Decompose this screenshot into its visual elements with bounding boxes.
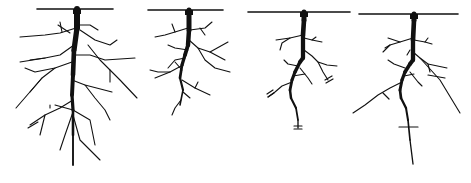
taproot-segment [72, 95, 73, 110]
lateral-root [60, 112, 73, 150]
taproot-segment [188, 30, 189, 45]
taproot-segment [401, 98, 406, 108]
taproot-segment [73, 50, 74, 75]
lateral-root [280, 35, 303, 50]
lateral-root [16, 78, 42, 108]
lateral-root [73, 115, 100, 160]
lateral-root [182, 80, 210, 95]
lateral-root [300, 68, 312, 84]
cut-mark [383, 93, 389, 99]
taproot-segment [182, 55, 185, 65]
lateral-root [72, 80, 112, 92]
lateral-root [195, 82, 198, 88]
lateral-root [172, 24, 175, 32]
taproot-segment [408, 120, 410, 140]
lateral-root [30, 45, 74, 60]
lateral-root [284, 60, 298, 66]
lateral-root [353, 82, 402, 113]
taproot-segment [180, 90, 183, 105]
lateral-root [383, 38, 413, 52]
taproot-segment [400, 90, 401, 98]
lateral-root [88, 45, 137, 98]
lateral-root [425, 38, 428, 42]
lateral-root [20, 58, 45, 62]
root-system-panel-3 [248, 12, 350, 129]
root-system-panel-1 [16, 9, 137, 165]
lateral-root [73, 55, 135, 60]
cut-mark [268, 93, 274, 97]
root-system-figure [0, 0, 471, 183]
lateral-root [210, 52, 225, 60]
taproot-segment [296, 108, 298, 120]
taproot-segment [410, 140, 413, 164]
taproot-segment [291, 98, 296, 108]
taproot-segment [406, 108, 408, 120]
taproot-segment [303, 20, 304, 35]
lateral-root [77, 25, 98, 30]
lateral-root [80, 30, 117, 45]
taproot-segment [72, 75, 73, 95]
lateral-root [183, 92, 190, 98]
taproot-segment [295, 62, 300, 72]
lateral-root [20, 28, 76, 37]
taproot-segment [400, 80, 402, 90]
taproot-segment [74, 28, 77, 50]
root-system-panel-2 [148, 10, 230, 115]
root-system-panel-4 [353, 14, 460, 164]
lateral-root [200, 28, 205, 35]
taproot-segment [290, 80, 292, 90]
lateral-root [388, 60, 405, 68]
lateral-root [172, 100, 181, 115]
lateral-root [30, 100, 73, 125]
lateral-root [388, 38, 400, 42]
lateral-root [304, 50, 337, 66]
lateral-root [25, 62, 72, 72]
lateral-root [155, 72, 170, 78]
taproot-segment [413, 20, 414, 40]
lateral-root [312, 37, 316, 40]
lateral-root [407, 50, 410, 55]
cut-mark [326, 79, 333, 83]
lateral-root [414, 40, 432, 44]
taproot-segment [290, 90, 291, 98]
root-diagrams-canvas [0, 0, 471, 183]
lateral-root [155, 28, 188, 37]
lateral-root [413, 52, 447, 68]
lateral-root [189, 40, 228, 52]
